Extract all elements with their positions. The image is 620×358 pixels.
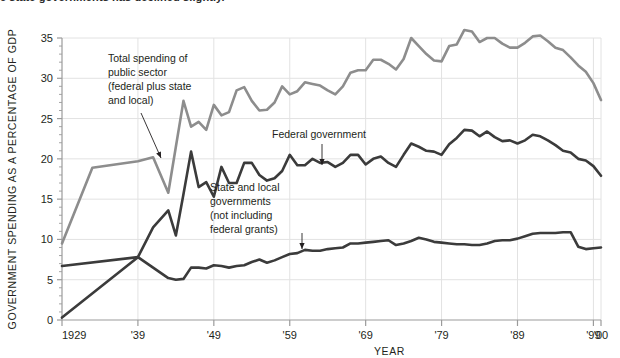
y-axis-title: GOVERNMENT SPENDING AS A PERCENTAGE OF G… — [6, 29, 18, 330]
annotation-text-line: federal grants) — [210, 223, 278, 235]
annotation-text-line: (not including — [210, 209, 273, 221]
x-tick-label: '69 — [358, 329, 372, 341]
y-tick-label: 5 — [47, 274, 53, 286]
x-tick-label: '39 — [131, 329, 145, 341]
y-tick-label: 25 — [41, 113, 53, 125]
y-tick-label: 30 — [41, 72, 53, 84]
federal-annotation: Federal government — [272, 128, 366, 165]
total-annotation: Total spending ofpublic sector(federal p… — [108, 52, 192, 158]
annotation-text-line: (federal plus state — [108, 80, 192, 92]
annotation-text-line: Total spending of — [108, 52, 187, 64]
y-tick-label: 10 — [41, 233, 53, 245]
x-tick-label: '59 — [283, 329, 297, 341]
annotation-text-line: and local) — [108, 94, 154, 106]
series-line-federal — [62, 130, 601, 318]
annotation-text-line: public sector — [108, 66, 167, 78]
x-tick-label: '89 — [510, 329, 524, 341]
x-tick-label: '00 — [594, 329, 608, 341]
annotation-text-line: State and local — [210, 181, 279, 193]
y-tick-label: 15 — [41, 193, 53, 205]
x-tick-label: 1929 — [62, 329, 86, 341]
annotation-arrow-head — [299, 243, 304, 249]
annotations-layer: Total spending ofpublic sector(federal p… — [108, 52, 366, 249]
x-tick-label: '79 — [434, 329, 448, 341]
annotation-arrow-line — [141, 113, 161, 158]
annotation-text-line: governments — [210, 195, 271, 207]
annotation-text-line: Federal government — [272, 128, 366, 140]
x-tick-labels: 1929'39'49'59'69'79'89'99'00 — [62, 329, 608, 341]
figure-container: e state governments has declined slightl… — [0, 0, 620, 358]
y-tick-label: 20 — [41, 153, 53, 165]
x-axis-title: YEAR — [374, 345, 405, 357]
x-tick-label: '49 — [207, 329, 221, 341]
y-tick-labels: 05101520253035 — [41, 32, 53, 326]
line-chart: 1929'39'49'59'69'79'89'99'00 05101520253… — [0, 0, 620, 358]
y-tick-label: 0 — [47, 314, 53, 326]
state-local-annotation: State and localgovernments(not including… — [210, 181, 305, 249]
y-tick-label: 35 — [41, 32, 53, 44]
